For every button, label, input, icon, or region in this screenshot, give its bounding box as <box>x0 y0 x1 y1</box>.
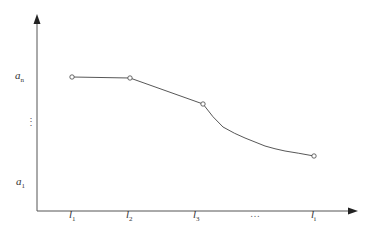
x-label-li: li <box>311 208 316 223</box>
x-label-sub: 2 <box>129 215 133 223</box>
point-marker <box>201 102 205 106</box>
point-marker <box>128 76 132 80</box>
ellipsis-glyph: … <box>250 208 260 219</box>
x-label-l3: l3 <box>193 208 200 223</box>
x-label-sub: i <box>314 215 316 223</box>
diagram-canvas <box>0 0 382 231</box>
curve-line <box>72 77 314 156</box>
y-label-sub: 1 <box>22 182 26 190</box>
y-axis-arrow-icon <box>34 14 41 24</box>
x-label-l2: l2 <box>126 208 133 223</box>
x-label-ellipsis: … <box>250 208 260 219</box>
x-label-l1: l1 <box>69 208 76 223</box>
x-label-sub: 1 <box>72 215 76 223</box>
y-label-a1: a1 <box>16 175 25 190</box>
y-label-an: an <box>15 69 24 84</box>
x-label-sub: 3 <box>196 215 200 223</box>
point-marker <box>70 75 74 79</box>
y-label-vdots: ⋮ <box>26 120 36 123</box>
vdots-glyph: ⋮ <box>26 116 36 127</box>
point-marker <box>312 154 316 158</box>
x-axis-arrow-icon <box>348 208 358 215</box>
y-label-sub: n <box>21 76 25 84</box>
